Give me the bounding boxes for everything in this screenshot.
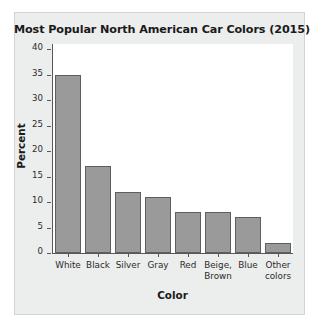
x-axis-tick-mark: [128, 253, 129, 257]
y-axis-tick-mark: [47, 100, 51, 101]
x-axis-label: Color: [52, 289, 293, 301]
bar[interactable]: [55, 75, 81, 253]
x-axis-tick-mark: [248, 253, 249, 257]
y-axis-tick-mark: [47, 151, 51, 152]
x-axis-tick-mark: [188, 253, 189, 257]
y-axis-tick-label: 20: [32, 144, 43, 154]
bar-slot: [53, 44, 83, 253]
bar[interactable]: [265, 243, 291, 253]
x-axis-tick-mark: [158, 253, 159, 257]
bar-slot: [233, 44, 263, 253]
bar-slot: [83, 44, 113, 253]
y-axis-tick-mark: [47, 177, 51, 178]
y-axis-tick-label: 25: [32, 119, 43, 129]
x-axis-category-label: Othercolors: [248, 260, 308, 281]
bar[interactable]: [115, 192, 141, 253]
y-axis-label: Percent: [15, 111, 27, 181]
bar-slot: [173, 44, 203, 253]
y-axis-tick-mark: [47, 126, 51, 127]
x-axis-category-label-line: colors: [248, 271, 308, 282]
y-axis-tick-label: 10: [32, 195, 43, 205]
y-axis-tick-mark: [47, 202, 51, 203]
chart-figure: Most Popular North American Car Colors (…: [0, 0, 321, 336]
bar[interactable]: [145, 197, 171, 253]
y-axis-tick-mark: [47, 49, 51, 50]
bar-slot: [263, 44, 293, 253]
chart-title: Most Popular North American Car Colors (…: [14, 23, 305, 36]
x-axis-tick-mark: [68, 253, 69, 257]
bar[interactable]: [205, 212, 231, 253]
y-axis-tick-label: 35: [32, 68, 43, 78]
x-axis-tick-mark: [278, 253, 279, 257]
x-axis-category-label-line: Brown: [188, 271, 248, 282]
x-axis-ticks: [53, 253, 293, 258]
y-axis-tick-mark: [47, 75, 51, 76]
bar-slot: [203, 44, 233, 253]
bar-series: [53, 44, 293, 253]
bar-slot: [113, 44, 143, 253]
y-axis-tick-label: 30: [32, 93, 43, 103]
bar[interactable]: [85, 166, 111, 253]
y-axis-tick-mark: [47, 228, 51, 229]
y-axis-tick-label: 40: [32, 42, 43, 52]
x-axis-category-label-line: Other: [248, 260, 308, 271]
bar-slot: [143, 44, 173, 253]
bar[interactable]: [175, 212, 201, 253]
y-axis-tick-label: 5: [38, 221, 43, 231]
x-axis-tick-mark: [218, 253, 219, 257]
y-axis-tick-mark: [47, 253, 51, 254]
bar[interactable]: [235, 217, 261, 253]
x-axis-tick-mark: [98, 253, 99, 257]
y-axis-tick-label: 0: [38, 246, 43, 256]
y-axis-tick-label: 15: [32, 170, 43, 180]
